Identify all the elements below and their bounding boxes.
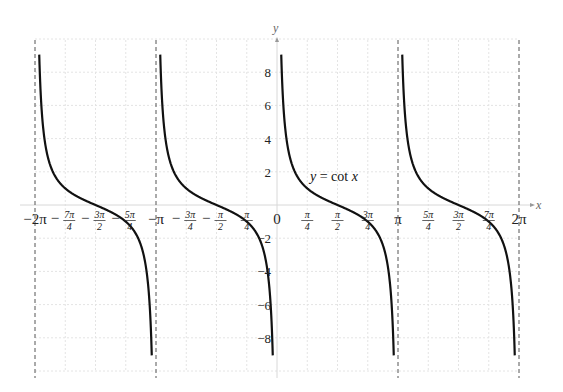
x-tick-denominator: 2 bbox=[456, 221, 461, 232]
x-tick-numerator: 5π bbox=[423, 209, 434, 220]
x-tick-label: 0 bbox=[273, 211, 281, 227]
x-tick-sign: − bbox=[202, 210, 210, 226]
x-tick-numerator: 5π bbox=[125, 209, 136, 220]
x-tick-numerator: π bbox=[335, 209, 341, 220]
x-tick-sign: − bbox=[81, 210, 89, 226]
x-tick-denominator: 4 bbox=[426, 221, 431, 232]
axes bbox=[20, 37, 535, 378]
y-tick-label: −4 bbox=[257, 264, 271, 279]
x-tick-label: 3π4 bbox=[362, 209, 374, 232]
x-tick-numerator: 3π bbox=[362, 209, 374, 220]
x-axis-arrow-icon bbox=[530, 203, 535, 207]
x-tick-denominator: 4 bbox=[305, 221, 310, 232]
x-tick-label: π4 bbox=[241, 209, 253, 232]
x-tick-label: 5π4 bbox=[422, 209, 434, 232]
x-tick-label: −3π4 bbox=[172, 209, 196, 232]
x-tick-denominator: 4 bbox=[486, 221, 491, 232]
y-axis-label: y bbox=[272, 21, 279, 35]
x-tick-label: −3π2 bbox=[81, 209, 105, 232]
x-tick-label: π2 bbox=[332, 209, 344, 232]
x-tick-numerator: π bbox=[305, 209, 311, 220]
x-tick-label: 3π2 bbox=[452, 209, 464, 232]
cot-chart: −2π−7π4−3π2−5π4−π−3π4−π2π40π4π23π4π5π43π… bbox=[0, 0, 563, 392]
x-tick-denominator: 2 bbox=[218, 221, 223, 232]
x-tick-label: −π bbox=[148, 211, 164, 227]
x-tick-label: −7π4 bbox=[51, 209, 75, 232]
annotation-x: x bbox=[351, 169, 359, 184]
y-tick-label: 8 bbox=[265, 65, 272, 80]
x-tick-numerator: 7π bbox=[64, 209, 75, 220]
x-tick-label: π4 bbox=[301, 209, 313, 232]
x-tick-numerator: 7π bbox=[484, 209, 495, 220]
x-tick-numerator: 3π bbox=[452, 209, 464, 220]
y-tick-label: −6 bbox=[257, 298, 271, 313]
x-tick-denominator: 4 bbox=[127, 221, 132, 232]
x-tick-denominator: 4 bbox=[67, 221, 72, 232]
function-annotation: y = cot x bbox=[308, 169, 359, 184]
x-tick-numerator: π bbox=[244, 209, 250, 220]
x-tick-labels: −2π−7π4−3π2−5π4−π−3π4−π2π40π4π23π4π5π43π… bbox=[23, 209, 527, 232]
x-tick-sign: − bbox=[172, 210, 180, 226]
x-tick-label: −2π bbox=[23, 211, 47, 227]
annotation-eq: = cot bbox=[316, 169, 352, 184]
x-tick-denominator: 4 bbox=[244, 221, 249, 232]
x-tick-label: 2π bbox=[511, 211, 527, 227]
x-tick-denominator: 4 bbox=[365, 221, 370, 232]
y-tick-label: −2 bbox=[257, 231, 271, 246]
x-tick-numerator: 3π bbox=[93, 209, 105, 220]
y-tick-label: 6 bbox=[265, 98, 272, 113]
x-tick-numerator: 3π bbox=[184, 209, 196, 220]
y-tick-label: −8 bbox=[257, 331, 271, 346]
x-tick-denominator: 4 bbox=[188, 221, 193, 232]
x-tick-denominator: 2 bbox=[335, 221, 340, 232]
x-axis-label: x bbox=[535, 198, 542, 212]
x-tick-sign: − bbox=[51, 210, 59, 226]
y-tick-label: 4 bbox=[265, 132, 272, 147]
x-tick-label: −π2 bbox=[202, 209, 226, 232]
x-tick-sign: − bbox=[111, 210, 119, 226]
x-tick-numerator: π bbox=[218, 209, 224, 220]
x-tick-label: 7π4 bbox=[483, 209, 495, 232]
x-tick-denominator: 2 bbox=[97, 221, 102, 232]
y-tick-label: 2 bbox=[265, 165, 272, 180]
x-tick-label: π bbox=[394, 211, 402, 227]
